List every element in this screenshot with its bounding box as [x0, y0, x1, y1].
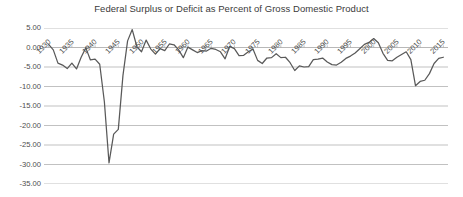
x-tick-label: 1960 [174, 38, 191, 55]
x-tick-label: 1950 [128, 38, 145, 55]
x-tick-label: 1935 [58, 38, 75, 55]
x-tick-label: 1970 [220, 38, 237, 55]
x-tick-label: 1945 [104, 38, 121, 55]
x-tick-label: 1980 [267, 38, 284, 55]
x-tick-label: 1940 [81, 38, 98, 55]
x-tick-label: 1990 [313, 38, 330, 55]
x-tick-label: 1985 [290, 38, 307, 55]
x-tick-label: 2005 [383, 38, 400, 55]
x-axis-tick-labels: 1930193519401945195019551960196519701975… [0, 0, 463, 197]
x-tick-label: 1955 [151, 38, 168, 55]
x-tick-label: 1930 [35, 38, 52, 55]
chart-container: Federal Surplus or Deficit as Percent of… [0, 0, 463, 197]
x-tick-label: 1995 [336, 38, 353, 55]
x-tick-label: 2010 [406, 38, 423, 55]
x-tick-label: 2000 [360, 38, 377, 55]
x-tick-label: 1965 [197, 38, 214, 55]
x-tick-label: 1975 [244, 38, 261, 55]
x-tick-label: 2015 [429, 38, 446, 55]
